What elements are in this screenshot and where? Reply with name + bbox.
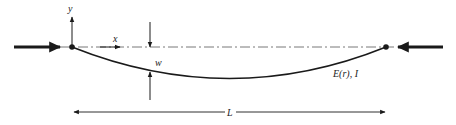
buckling-diagram: y x w E(r), I L: [0, 0, 456, 125]
material-label: E(r), I: [332, 68, 359, 80]
deflection-label: w: [155, 57, 162, 68]
y-axis-label: y: [67, 3, 73, 14]
x-axis-label: x: [112, 33, 118, 44]
right-pin: [383, 44, 389, 50]
length-label: L: [226, 107, 233, 118]
